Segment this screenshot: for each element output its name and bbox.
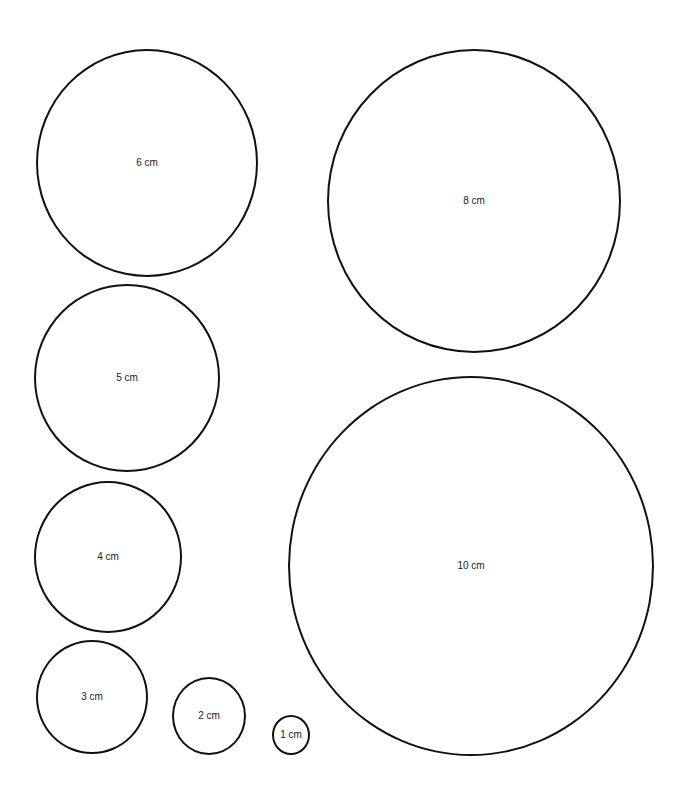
circle-8cm-label: 8 cm xyxy=(463,196,485,206)
circle-3cm-label: 3 cm xyxy=(81,692,103,702)
circle-5cm-label: 5 cm xyxy=(116,373,138,383)
circle-10cm-label: 10 cm xyxy=(457,561,484,571)
circle-2cm-label: 2 cm xyxy=(198,711,220,721)
circle-template-sheet: 6 cm 8 cm 5 cm 10 cm 4 cm 3 cm 2 cm 1 cm xyxy=(0,0,691,797)
circle-1cm-label: 1 cm xyxy=(280,730,302,740)
circle-4cm-label: 4 cm xyxy=(97,552,119,562)
circle-6cm-label: 6 cm xyxy=(136,158,158,168)
